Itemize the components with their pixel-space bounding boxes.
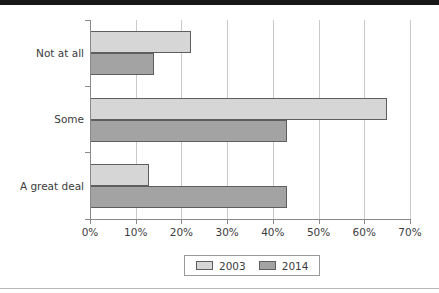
- chart-legend: 2003 2014: [184, 255, 320, 276]
- x-axis-label: 30%: [207, 226, 247, 238]
- x-axis-label: 50%: [299, 226, 339, 238]
- y-axis-tick: [85, 20, 90, 21]
- x-axis-tick: [136, 219, 137, 224]
- x-axis-tick: [227, 219, 228, 224]
- category-label-a-great-deal: A great deal: [0, 180, 84, 192]
- y-axis-line: [90, 20, 91, 219]
- category-label-some: Some: [0, 113, 84, 125]
- y-axis-tick: [85, 86, 90, 87]
- x-axis-label: 10%: [116, 226, 156, 238]
- top-band: [0, 0, 439, 5]
- chart-figure: Not at all Some A great deal 2003 2014 0…: [0, 0, 439, 293]
- x-axis-label: 0%: [70, 226, 110, 238]
- category-label-not-at-all: Not at all: [0, 47, 84, 59]
- x-axis-tick: [273, 219, 274, 224]
- legend-swatch-icon: [259, 261, 276, 270]
- bar-a-great-deal-2003: [90, 164, 149, 186]
- legend-label: 2003: [219, 260, 246, 272]
- bottom-rule: [0, 288, 439, 289]
- x-axis-label: 20%: [161, 226, 201, 238]
- bar-some-2014: [90, 120, 287, 142]
- category-label-text: Not at all: [36, 47, 84, 59]
- x-axis-line: [90, 219, 410, 220]
- x-axis-tick: [90, 219, 91, 224]
- x-axis-tick: [319, 219, 320, 224]
- legend-label: 2014: [282, 260, 309, 272]
- bar-some-2003: [90, 98, 387, 120]
- x-axis-tick: [410, 219, 411, 224]
- x-axis-label: 60%: [344, 226, 384, 238]
- x-axis-label: 40%: [253, 226, 293, 238]
- x-axis-label: 70%: [390, 226, 430, 238]
- legend-item-2003: 2003: [196, 260, 246, 272]
- gridline: [364, 20, 365, 219]
- category-label-text: A great deal: [20, 180, 84, 192]
- x-axis-tick: [181, 219, 182, 224]
- legend-item-2014: 2014: [259, 260, 309, 272]
- gridline: [319, 20, 320, 219]
- legend-swatch-icon: [196, 261, 213, 270]
- x-axis-tick: [364, 219, 365, 224]
- category-label-text: Some: [54, 113, 84, 125]
- plot-area: [90, 20, 410, 219]
- bar-not-at-all-2014: [90, 53, 154, 75]
- gridline: [410, 20, 411, 219]
- bar-a-great-deal-2014: [90, 186, 287, 208]
- bar-not-at-all-2003: [90, 31, 191, 53]
- y-axis-tick: [85, 152, 90, 153]
